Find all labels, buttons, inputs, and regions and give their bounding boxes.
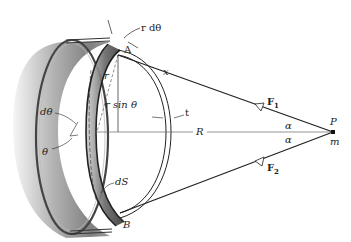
label-dS: dS [115,177,128,187]
F2-arrow-icon [255,157,264,166]
diagram-drawing [0,0,351,242]
label-r: r [104,71,109,81]
label-dtheta: dθ [40,107,52,117]
label-F2: F2 [267,163,279,175]
label-B: B [123,220,130,230]
label-alpha-bottom: α [285,135,292,145]
label-r-sin-theta: r sin θ [105,100,137,110]
label-A: A [124,45,131,55]
particle-P [331,130,335,134]
spherical-shell-diagram: r dθ A x r r sin θ t dθ θ R F1 F2 α α P … [0,0,351,242]
label-P: P [330,117,337,127]
label-t: t [185,108,189,118]
t-dimension [152,115,184,118]
label-F1: F1 [267,97,279,109]
label-R: R [193,127,207,137]
label-m: m [330,137,339,147]
label-theta: θ [42,147,48,157]
label-x: x [163,67,169,77]
label-alpha-top: α [285,121,292,131]
label-r-dtheta: r dθ [141,23,161,33]
force-lines [118,55,333,213]
F1-arrow-icon [255,103,264,111]
